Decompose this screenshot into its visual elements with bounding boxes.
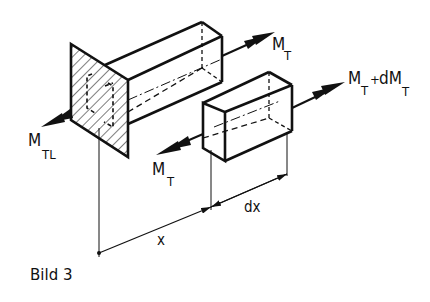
label-mt-upper-sub: T [283, 48, 292, 63]
diagram-canvas: M T M T + dM T M TL M T [0, 0, 430, 302]
label-dim-dx: dx [244, 198, 261, 216]
label-mtl-sub: TL [41, 147, 56, 162]
torque-arrow-mt-upper [222, 32, 275, 56]
dimension-x [97, 207, 211, 255]
svg-text:dM: dM [379, 68, 402, 88]
torque-arrow-mt-lower [156, 134, 203, 155]
label-mt-lower: M [152, 159, 165, 179]
svg-text:T: T [401, 84, 410, 99]
torque-arrow-mtl [41, 109, 73, 127]
figure-caption: Bild 3 [30, 266, 72, 284]
svg-text:T: T [360, 83, 369, 98]
torque-arrow-mt-plus-dmt [292, 82, 345, 108]
label-mtl: M [28, 130, 41, 150]
label-mt-plus-dmt: M T + dM T [348, 68, 410, 99]
label-dim-x: x [157, 231, 165, 249]
svg-text:M: M [348, 68, 361, 88]
label-mt-lower-sub: T [166, 174, 175, 189]
